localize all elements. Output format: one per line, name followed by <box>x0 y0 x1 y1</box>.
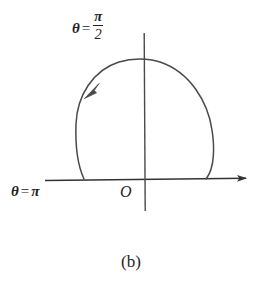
pi-symbol: π <box>31 183 39 199</box>
fraction-denominator: 2 <box>92 26 104 43</box>
origin-label: O <box>120 184 132 200</box>
label-theta-equals-pi: θ=π <box>11 184 39 199</box>
label-theta-equals-half-pi: θ= π 2 <box>72 9 104 42</box>
equals-symbol: = <box>19 183 31 199</box>
direction-arrow-icon <box>85 84 100 99</box>
figure-caption: (b) <box>0 252 262 272</box>
fraction-numerator: π <box>92 9 104 25</box>
equals-symbol: = <box>80 20 92 36</box>
theta-symbol: θ <box>72 20 80 36</box>
fraction-pi-over-two: π 2 <box>92 9 104 42</box>
theta-symbol: θ <box>11 183 19 199</box>
